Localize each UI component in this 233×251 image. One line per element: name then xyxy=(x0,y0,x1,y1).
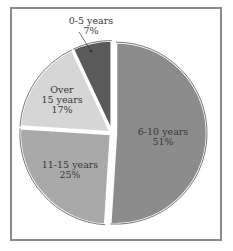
pie-chart: 0-5 years 7% Over 15 years 17% 11-15 yea… xyxy=(0,0,233,251)
svg-text:17%: 17% xyxy=(51,104,72,115)
svg-text:25%: 25% xyxy=(59,169,80,180)
label-0-5: 0-5 years 7% xyxy=(69,15,114,36)
svg-text:7%: 7% xyxy=(83,25,98,36)
leader-dot-0-5 xyxy=(90,50,92,52)
svg-text:51%: 51% xyxy=(152,136,173,147)
